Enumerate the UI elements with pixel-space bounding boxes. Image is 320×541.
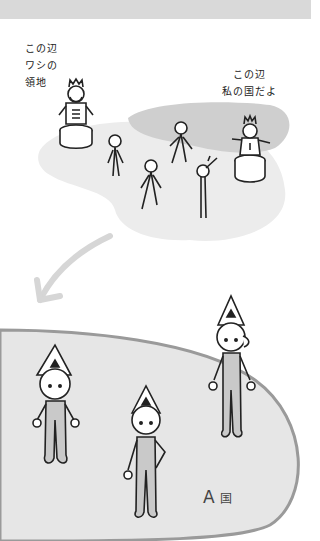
left-king-speech: この辺 ワシの 領地 [25,40,58,91]
left-king-figure [59,79,93,148]
curved-arrow [37,236,110,300]
country-label: A 国 [203,487,232,507]
country-kanji: 国 [220,492,232,506]
right-king-speech: この辺 私の国だよ [222,66,277,100]
country-letter: A [203,487,215,507]
